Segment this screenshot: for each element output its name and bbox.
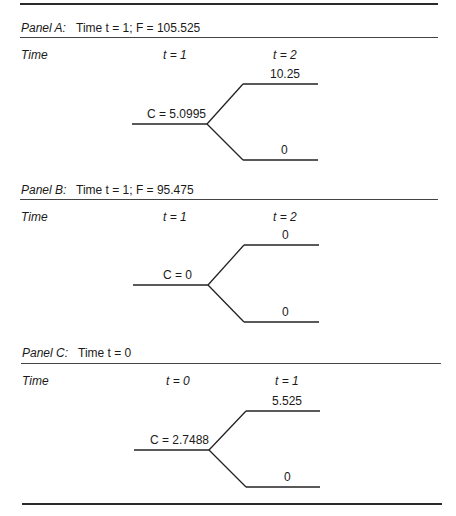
panel-c-tree	[134, 411, 320, 487]
binomial-tree-diagram	[0, 0, 456, 516]
bottom-rule	[22, 503, 442, 505]
panel-a-tree	[132, 84, 318, 160]
panel-b-tree	[133, 245, 319, 322]
